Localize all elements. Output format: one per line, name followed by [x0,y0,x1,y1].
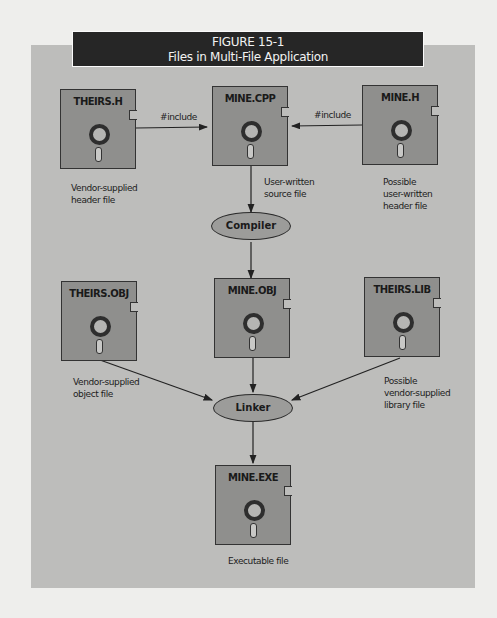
file-label: THEIRS.H [61,96,135,107]
disk-mine-exe: MINE.EXE [215,465,291,545]
floppy-hub-icon [243,313,264,334]
write-protect-notch [431,106,439,116]
floppy-slot-icon [250,523,257,538]
write-protect-notch [284,486,292,496]
write-protect-notch [281,107,289,117]
edge-label-include-right: #include [314,110,351,120]
file-label: MINE.H [363,92,437,103]
file-label: MINE.EXE [216,472,290,483]
disk-theirs-lib: THEIRS.LIB [364,277,440,357]
disk-mine-obj: MINE.OBJ [214,278,290,358]
floppy-slot-icon [247,144,254,159]
write-protect-notch [130,302,138,312]
floppy-slot-icon [95,147,102,162]
disk-mine-cpp: MINE.CPP [212,86,288,166]
floppy-slot-icon [399,335,406,350]
caption-mine-cpp: User-written source file [264,176,314,200]
floppy-hub-icon [391,120,412,141]
linker-node: Linker [213,394,293,422]
caption-mine-h: Possible user-written header file [383,176,432,212]
edge-mine-h-to-mine-cpp [292,125,362,126]
floppy-slot-icon [397,143,404,158]
caption-theirs-obj: Vendor-supplied object file [73,376,139,400]
floppy-hub-icon [90,316,111,337]
write-protect-notch [129,110,137,120]
floppy-hub-icon [393,312,414,333]
floppy-hub-icon [241,121,262,142]
edge-theirs-h-to-mine-cpp [136,127,207,128]
disk-mine-h: MINE.H [362,85,438,165]
caption-theirs-h: Vendor-supplied header file [71,182,137,206]
floppy-hub-icon [89,124,110,145]
edge-label-include-left: #include [160,112,197,122]
caption-theirs-lib: Possible vendor-supplied library file [384,375,450,411]
file-label: MINE.OBJ [215,285,289,296]
disk-theirs-obj: THEIRS.OBJ [61,281,137,361]
file-label: MINE.CPP [213,93,287,104]
file-label: THEIRS.LIB [365,284,439,295]
floppy-slot-icon [96,339,103,354]
compiler-node: Compiler [211,212,291,240]
floppy-slot-icon [249,336,256,351]
floppy-hub-icon [244,500,265,521]
caption-mine-exe: Executable file [228,555,288,567]
write-protect-notch [433,298,441,308]
write-protect-notch [283,299,291,309]
disk-theirs-h: THEIRS.H [60,89,136,169]
file-label: THEIRS.OBJ [62,288,136,299]
